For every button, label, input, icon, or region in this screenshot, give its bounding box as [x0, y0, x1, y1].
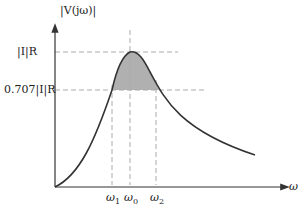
response-curve [55, 52, 255, 187]
w0-label: ω0 [124, 192, 138, 206]
peak-label: |I|R [17, 46, 37, 57]
half-power-label: 0.707|I|R [4, 84, 56, 95]
resonance-plot [0, 0, 302, 214]
x-axis-label: ω [289, 181, 298, 192]
y-axis-label: |V(jω)| [60, 5, 96, 16]
shaded-bandwidth-region [112, 52, 159, 90]
w1-label: ω1 [106, 192, 120, 206]
w2-label: ω2 [150, 192, 164, 206]
